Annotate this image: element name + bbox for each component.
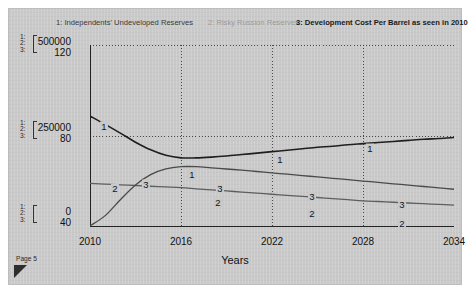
axis-index-row-3: 3: xyxy=(20,133,25,139)
x-axis-title: Years xyxy=(8,254,462,266)
page-label: Page 5 xyxy=(16,255,37,262)
axis-index-bot: 1: 2: 3: xyxy=(20,204,25,223)
resize-grip-icon[interactable] xyxy=(13,264,28,279)
x-tick-label: 2028 xyxy=(352,236,374,247)
axis-index-row-3: 3: xyxy=(20,217,25,223)
series-point-label: 2 xyxy=(399,218,404,227)
series-point-label: 1 xyxy=(277,154,282,165)
x-tick-labels: 20102016202220282034 xyxy=(90,236,454,250)
screenshot-root: 1: Independents' Undeveloped Reserves 2:… xyxy=(0,0,470,293)
axis-bracket-mid xyxy=(33,121,37,139)
series-line-1 xyxy=(90,116,454,158)
series-point-label: 3 xyxy=(399,199,404,210)
chart-legend: 1: Independents' Undeveloped Reserves 2:… xyxy=(8,16,462,30)
series-point-label: 1 xyxy=(367,143,372,154)
y-tick-secondary: 80 xyxy=(38,133,71,144)
chart-card: 1: Independents' Undeveloped Reserves 2:… xyxy=(8,8,462,285)
y-tick-label-top: 500000 120 xyxy=(38,36,71,58)
x-tick-label: 2034 xyxy=(443,236,465,247)
x-tick-label: 2022 xyxy=(261,236,283,247)
series-point-label: 3 xyxy=(309,191,314,202)
series-point-label: 2 xyxy=(112,183,117,194)
series-point-label: 3 xyxy=(143,179,148,190)
x-tick-label: 2010 xyxy=(79,236,101,247)
axis-index-row-3: 3: xyxy=(20,47,25,53)
y-tick-primary: 500000 xyxy=(38,36,71,47)
axis-bracket-bot xyxy=(33,205,37,223)
chart-canvas: 111122223333 xyxy=(90,45,454,227)
series-point-label: 2 xyxy=(215,197,220,208)
y-tick-label-bot: 0 40 xyxy=(60,206,71,228)
y-tick-label-mid: 250000 80 xyxy=(38,122,71,144)
y-tick-primary: 0 xyxy=(60,206,71,217)
series-point-label: 3 xyxy=(217,183,222,194)
y-tick-secondary: 40 xyxy=(60,217,71,228)
plot-area: 111122223333 xyxy=(90,45,454,227)
legend-item-2: 2: Risky Russion Reserves xyxy=(208,16,299,30)
legend-item-1: 1: Independents' Undeveloped Reserves xyxy=(56,16,193,30)
series-point-label: 1 xyxy=(189,169,194,180)
y-tick-primary: 250000 xyxy=(38,122,71,133)
axis-index-mid: 1: 2: 3: xyxy=(20,120,25,139)
axis-bracket-top xyxy=(33,35,37,53)
axis-index-top: 1: 2: 3: xyxy=(20,34,25,53)
legend-item-3: 3: Development Cost Per Barrel as seen i… xyxy=(296,16,468,30)
series-point-label: 1 xyxy=(101,121,106,132)
series-point-label: 2 xyxy=(309,208,314,219)
y-tick-secondary: 120 xyxy=(38,47,71,58)
x-tick-label: 2016 xyxy=(170,236,192,247)
